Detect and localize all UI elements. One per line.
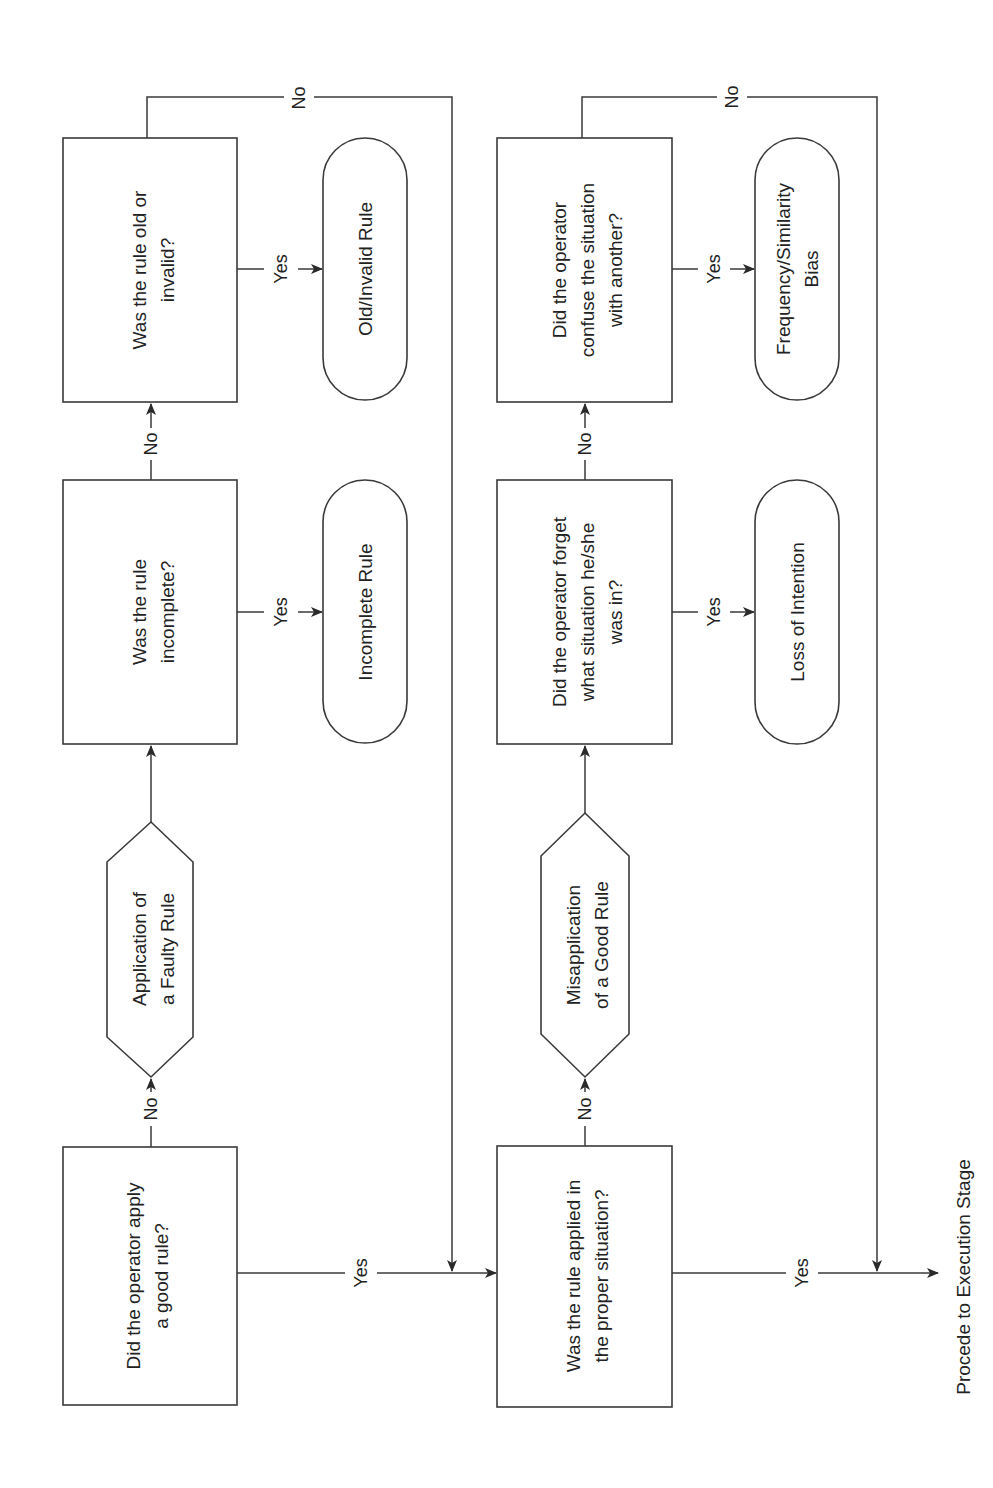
q-old-invalid-line-1: Was the rule old or <box>129 190 150 349</box>
edge-label-proper-yes: Yes <box>792 1258 812 1287</box>
edge-label-confuse-no: No <box>722 85 742 108</box>
edge-label-old-yes: Yes <box>271 254 291 283</box>
node-faulty-rule-hexagon[interactable] <box>107 822 193 1077</box>
q-confuse-line-1: Did the operator <box>549 201 570 338</box>
q-forget-line-1: Did the operator forget <box>549 516 570 707</box>
node-q-proper-situation-box[interactable] <box>497 1146 672 1407</box>
node-freq-bias-terminator[interactable] <box>755 138 839 400</box>
q-forget-line-3: was in? <box>605 580 626 645</box>
misapplication-line-2: of a Good Rule <box>591 881 612 1009</box>
q-incomplete-line-2: incomplete? <box>157 561 178 663</box>
flowchart-canvas: Did the operator apply a good rule? Appl… <box>0 0 993 1488</box>
q-proper-line-1: Was the rule applied in <box>563 1180 584 1373</box>
old-invalid-label: Old/Invalid Rule <box>355 202 376 336</box>
q-incomplete-line-1: Was the rule <box>129 559 150 665</box>
edge-label-incomplete-yes: Yes <box>271 597 291 626</box>
freq-bias-line-2: Bias <box>801 251 822 288</box>
edge-label-q1-yes: Yes <box>351 1258 371 1287</box>
node-q-incomplete-box[interactable] <box>63 480 237 744</box>
q-good-rule-line-1: Did the operator apply <box>123 1182 144 1369</box>
edge-confuse-no-segment-a <box>582 97 717 138</box>
faulty-rule-line-1: Application of <box>129 891 150 1006</box>
edge-label-forget-no: No <box>575 432 595 455</box>
edge-label-q1-no: No <box>141 1097 161 1120</box>
node-q-good-rule-box[interactable] <box>63 1147 237 1405</box>
q-confuse-line-2: confuse the situation <box>577 183 598 357</box>
loss-intention-label: Loss of Intention <box>787 542 808 681</box>
q-good-rule-line-2: a good rule? <box>151 1223 172 1329</box>
incomplete-rule-label: Incomplete Rule <box>355 543 376 680</box>
q-old-invalid-line-2: invalid? <box>157 238 178 302</box>
edge-label-confuse-yes: Yes <box>704 254 724 283</box>
q-forget-line-2: what situation he/she <box>577 523 598 703</box>
edge-label-proper-no: No <box>575 1097 595 1120</box>
shapes <box>63 138 839 1407</box>
edge-labels: No No Yes Yes No Yes No No Yes Yes No Ye… <box>141 85 812 1287</box>
edge-label-old-no: No <box>289 86 309 109</box>
misapplication-line-1: Misapplication <box>563 885 584 1005</box>
edge-old-no-segment-a <box>147 97 284 138</box>
node-misapplication-hexagon[interactable] <box>541 813 629 1077</box>
q-confuse-line-3: with another? <box>605 213 626 328</box>
execution-stage-label: Procede to Execution Stage <box>953 1159 974 1395</box>
q-proper-line-2: the proper situation? <box>591 1189 612 1362</box>
freq-bias-line-1: Frequency/Similarity <box>773 182 794 355</box>
edge-label-forget-yes: Yes <box>704 597 724 626</box>
edge-label-incomplete-no: No <box>141 432 161 455</box>
faulty-rule-line-2: a Faulty Rule <box>157 893 178 1005</box>
node-q-old-invalid-box[interactable] <box>63 138 237 402</box>
